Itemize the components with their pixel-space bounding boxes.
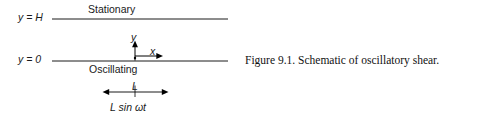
x-axis-arrowhead — [156, 53, 163, 59]
label-axis-y: y — [131, 32, 136, 43]
dimension-arrowhead-left — [103, 89, 110, 95]
origin-point — [134, 57, 136, 59]
label-stationary-wall: Stationary — [88, 4, 135, 15]
label-y-equals-h: y = H — [18, 12, 43, 23]
schematic-diagram: y = H y = 0 Stationary Oscillating y x L… — [0, 0, 240, 122]
label-y-equals-h-text: y = H — [18, 11, 43, 23]
label-dimension-l: L — [132, 81, 138, 92]
label-y-equals-zero: y = 0 — [18, 54, 41, 65]
figure-oscillatory-shear: y = H y = 0 Stationary Oscillating y x L… — [0, 0, 482, 122]
label-y-equals-zero-text: y = 0 — [18, 53, 41, 65]
dimension-arrowhead-right — [162, 89, 169, 95]
label-oscillating-wall: Oscillating — [89, 64, 137, 75]
figure-caption: Figure 9.1. Schematic of oscillatory she… — [245, 54, 480, 68]
label-amplitude-expression: L sin ωt — [110, 102, 146, 113]
label-axis-x: x — [150, 46, 155, 57]
